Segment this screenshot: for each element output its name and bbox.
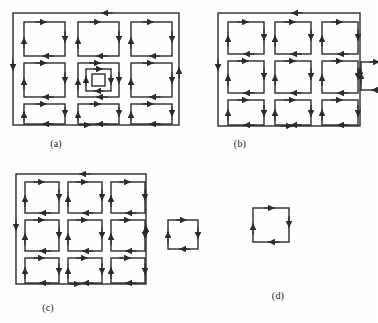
panel-a-caption: (a) (0, 138, 146, 149)
panel-c-caption: (c) (0, 302, 148, 313)
panel-c-satellite-square (168, 220, 198, 249)
panel-c: (c) (8, 168, 208, 318)
panel-b-caption: (b) (150, 138, 330, 149)
panel-a-nested-center-square (86, 69, 111, 91)
panel-d-square (253, 208, 289, 242)
panel-b-satellite-square (361, 62, 378, 90)
panel-c-outer-boundary (16, 174, 146, 284)
panel-a-cells (24, 22, 172, 124)
panel-b-cells (228, 22, 358, 125)
panel-c-diagram (8, 168, 208, 298)
panel-a: (a) (8, 8, 188, 156)
panel-b: (b) (198, 8, 378, 156)
panel-c-cells (25, 182, 145, 283)
panel-d: (d) (243, 198, 353, 318)
panel-d-diagram (243, 198, 313, 258)
panel-a-diagram (8, 8, 188, 134)
panel-b-diagram (198, 8, 376, 134)
panel-d-caption: (d) (223, 290, 333, 301)
panel-b-outer-boundary (218, 13, 360, 126)
